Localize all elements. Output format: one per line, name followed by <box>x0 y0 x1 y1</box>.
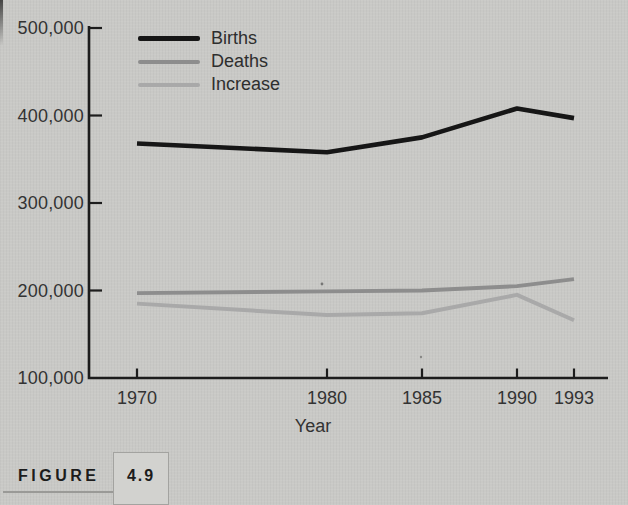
y-tick-label: 200,000 <box>0 281 84 302</box>
scan-speck <box>420 356 422 358</box>
caption-rule <box>3 491 113 493</box>
legend-item-increase: Increase <box>138 73 280 96</box>
x-tick-label: 1970 <box>105 388 169 409</box>
figure-number-box: 4.9 <box>113 452 169 505</box>
y-tick-label: 400,000 <box>0 106 84 127</box>
scan-edge-artifact <box>0 0 3 46</box>
chart-legend: BirthsDeathsIncrease <box>138 27 280 96</box>
x-tick-label: 1990 <box>485 388 549 409</box>
legend-item-deaths: Deaths <box>138 50 280 73</box>
scan-speck <box>321 283 324 286</box>
x-tick-label: 1980 <box>295 388 359 409</box>
figure-number: 4.9 <box>127 467 155 485</box>
y-tick-label: 100,000 <box>0 368 84 389</box>
x-axis-title: Year <box>283 416 343 437</box>
legend-swatch-deaths <box>138 60 200 64</box>
x-tick-label: 1993 <box>542 388 606 409</box>
figure-caption-label: FIGURE <box>18 467 99 485</box>
legend-item-births: Births <box>138 27 280 50</box>
series-line-births <box>137 109 574 153</box>
legend-label-increase: Increase <box>211 74 280 95</box>
legend-swatch-births <box>138 36 200 41</box>
y-tick-label: 500,000 <box>0 18 84 39</box>
figure-page: BirthsDeathsIncrease 100,000200,000300,0… <box>0 0 628 505</box>
series-line-increase <box>137 295 574 320</box>
legend-label-births: Births <box>211 28 257 49</box>
x-tick-label: 1985 <box>390 388 454 409</box>
legend-swatch-increase <box>138 83 200 87</box>
legend-label-deaths: Deaths <box>211 51 268 72</box>
series-line-deaths <box>137 279 574 293</box>
y-tick-label: 300,000 <box>0 193 84 214</box>
